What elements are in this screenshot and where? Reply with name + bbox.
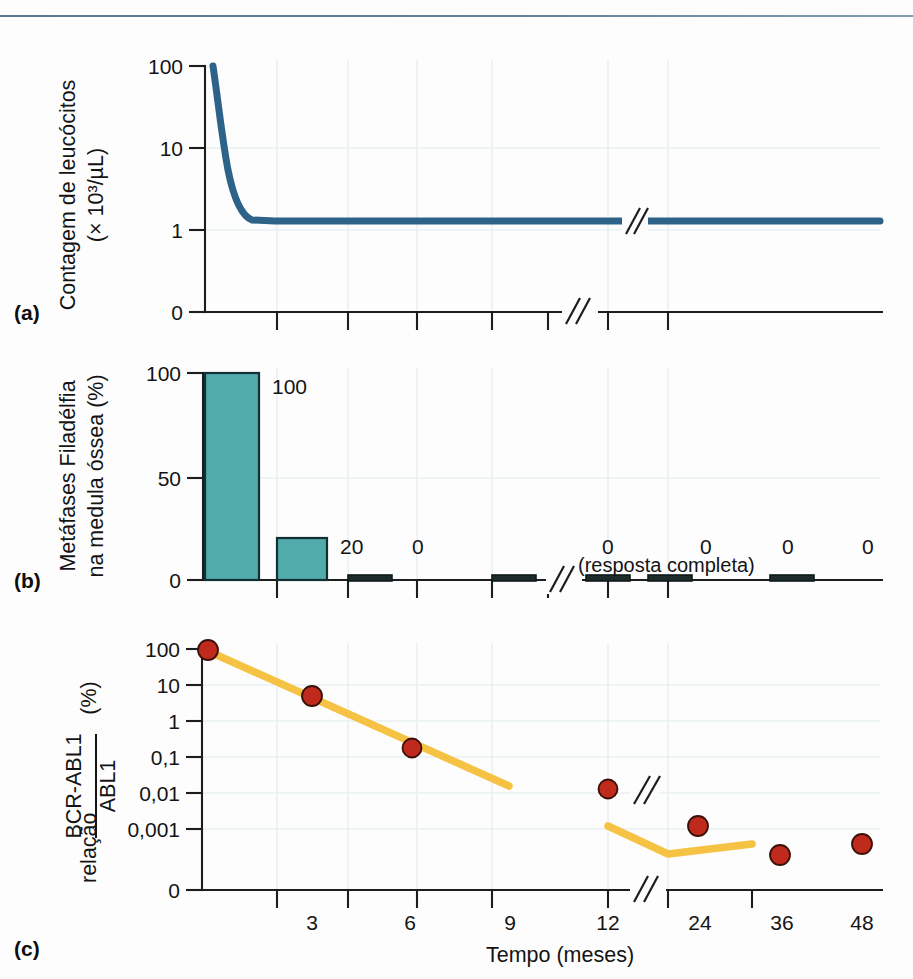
panel-b-bar-zero [348, 575, 392, 581]
panel-c-ylabel-denominator: ABL1 [96, 760, 120, 813]
panel-b-axis-break [546, 566, 582, 594]
panel-c-ylabel-numerator: BCR-ABL1 [62, 733, 86, 838]
panel-b-ytick-label: 50 [158, 467, 181, 490]
panel-b-annotation: (resposta completa) [578, 554, 755, 576]
panel-a-ytick-label: 10 [160, 137, 183, 160]
panel-c-ytick-label: 0 [168, 879, 180, 902]
panel-a-letter: (a) [14, 301, 40, 324]
panel-c-data-point [770, 845, 790, 865]
panel-b-chart: 100 50 0 100 20 0 0 0 0 0 [0, 358, 913, 628]
panel-a-chart: 100 10 1 0 Contagem de leucó [0, 20, 913, 365]
panel-c-data-point [302, 686, 322, 706]
panel-c-xtick-label: 9 [504, 911, 516, 934]
panel-b-value-label: 20 [340, 535, 363, 558]
panel-a-y-ticks [189, 66, 205, 312]
panel-c-ylabel-unit: (%) [77, 681, 101, 714]
panel-c-letter: (c) [14, 937, 40, 960]
panel-b-ytick-label: 100 [146, 362, 181, 385]
panel-a-wbc-curve [213, 66, 880, 221]
page-top-rule [0, 15, 913, 17]
panel-c-ytick-label: 100 [145, 638, 180, 661]
panel-c-xtick-label: 48 [850, 911, 873, 934]
panel-c-ytick-label: 0,01 [139, 782, 180, 805]
panel-c-trend-line-left [210, 652, 509, 786]
panel-b-letter: (b) [14, 569, 41, 592]
panel-c-data-point [198, 640, 218, 660]
panel-b-bar-zero [492, 575, 536, 581]
panel-c-ytick-label: 1 [168, 710, 180, 733]
panel-a-ylabel-line2: (× 10³/µL) [84, 148, 108, 242]
panel-b-ytick-label: 0 [169, 569, 181, 592]
panel-c-data-point [599, 780, 618, 799]
panel-c-xtick-label: 3 [306, 911, 318, 934]
panel-c-ytick-label: 10 [157, 674, 180, 697]
panel-c-data-point [688, 816, 708, 836]
panel-b-value-label: 0 [412, 535, 424, 558]
panel-c-xtick-label: 24 [688, 911, 712, 934]
panel-b-value-label: 100 [272, 375, 307, 398]
panel-a-ylabel-line1: Contagem de leucócitos [56, 80, 80, 311]
panel-b-x-ticks [277, 580, 668, 598]
panel-b-y-ticks [187, 373, 203, 580]
panel-c-xlabel: Tempo (meses) [486, 943, 634, 967]
panel-c-xtick-label: 12 [596, 911, 619, 934]
panel-a-gridlines [205, 60, 880, 312]
panel-c-trend-line-right [608, 826, 752, 854]
figure-root: 100 10 1 0 Contagem de leucó [0, 0, 913, 979]
panel-b-bar [277, 538, 327, 580]
panel-b-ylabel-line2: na medula óssea (%) [84, 374, 108, 577]
panel-c-xtick-label: 36 [770, 911, 793, 934]
panel-c-x-ticks [277, 890, 752, 908]
panel-c-ytick-label: 0,001 [127, 818, 180, 841]
panel-a-ytick-label: 0 [171, 301, 183, 324]
panel-a-line-break [622, 206, 648, 236]
panel-c-data-point [403, 739, 422, 758]
panel-a-x-ticks [277, 312, 668, 330]
panel-b-ylabel-line1: Metáfases Filadélfia [56, 380, 80, 571]
panel-c-xtick-label: 6 [404, 911, 416, 934]
panel-b-bar [205, 373, 259, 580]
panel-b-bar-zero [770, 575, 814, 581]
panel-a-ytick-label: 100 [148, 55, 183, 78]
panel-c-ytick-label: 0,1 [151, 746, 180, 769]
panel-b-value-label: 0 [782, 535, 794, 558]
panel-c-y-ticks [186, 649, 202, 890]
panel-b-value-label: 0 [862, 535, 874, 558]
panel-c-data-point [852, 834, 872, 854]
panel-a-ytick-label: 1 [171, 219, 183, 242]
panel-c-ylabel: relação BCR-ABL1 ABL1 (%) [62, 681, 120, 883]
panel-c-line-break [630, 773, 660, 805]
panel-c-chart: 100 10 1 0,1 0,01 0,001 0 [0, 638, 913, 978]
panel-a-axis-break [562, 298, 598, 326]
panel-c-axis-break [630, 876, 666, 904]
